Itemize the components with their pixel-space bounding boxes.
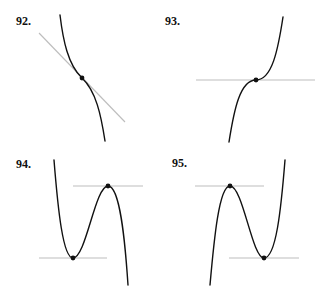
panel-label-92: 92.: [16, 14, 31, 28]
panel-label-94: 94.: [16, 157, 31, 171]
panel-92: 92.: [16, 14, 125, 141]
figure-canvas: 92. 93. 94. 95.: [0, 0, 321, 298]
function-curve: [54, 160, 128, 285]
inflection-point: [80, 76, 85, 81]
local-max-point: [228, 184, 233, 189]
local-max-point: [106, 184, 111, 189]
panel-94: 94.: [16, 157, 143, 285]
local-min-point: [262, 256, 267, 261]
panel-label-95: 95.: [172, 156, 187, 170]
inflection-point: [254, 78, 259, 83]
panel-95: 95.: [172, 156, 299, 285]
function-curve: [210, 160, 285, 285]
panel-label-93: 93.: [165, 14, 180, 28]
local-min-point: [71, 256, 76, 261]
panel-93: 93.: [165, 14, 315, 142]
